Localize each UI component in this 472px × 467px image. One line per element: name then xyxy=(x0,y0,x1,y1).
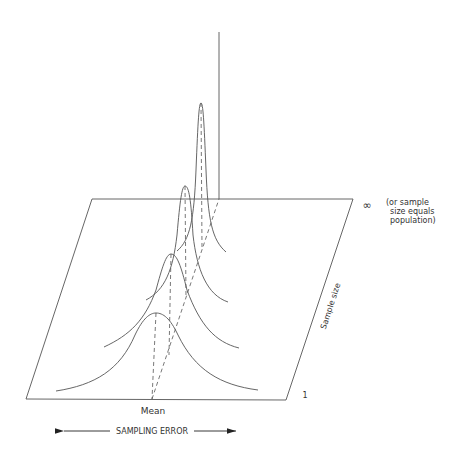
curve-sample-size-1 xyxy=(56,313,258,391)
infinity-note-line-2: size equals xyxy=(390,207,434,216)
infinity-note-line-3: population) xyxy=(390,216,436,225)
sampling-error-label: SAMPLING ERROR xyxy=(116,427,188,436)
curve-1-mean-dashed xyxy=(152,313,156,399)
curve-sample-size-2 xyxy=(104,254,239,348)
infinity-label: ∞ xyxy=(362,199,371,212)
sampling-distribution-diagram: Mean ∞ (or sample size equals population… xyxy=(0,0,472,467)
one-label: 1 xyxy=(302,391,307,400)
infinity-note-line-1: (or sample xyxy=(386,198,429,207)
mean-label: Mean xyxy=(141,406,166,416)
curve-4-mean-dashed xyxy=(201,103,202,248)
sample-size-axis-label: Sample size xyxy=(319,282,342,331)
curve-sample-size-3 xyxy=(146,186,228,302)
